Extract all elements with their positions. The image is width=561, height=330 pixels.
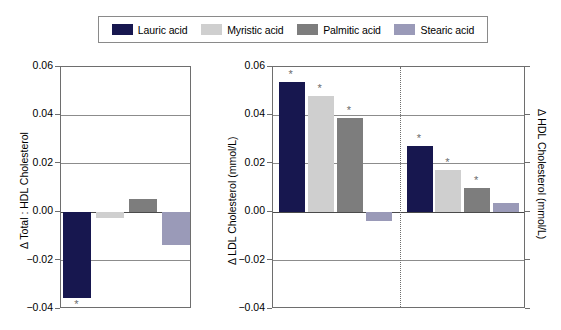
bar — [308, 96, 334, 213]
y-axis-tick-label: 0.02 — [13, 156, 53, 168]
left-panel-y-axis-title: Δ Total : HDL Cholesterol — [18, 132, 30, 249]
y-axis-tick-mark — [267, 162, 272, 163]
y-axis-tick-mark — [267, 308, 272, 309]
right-panel-plot-area — [272, 66, 525, 308]
y-axis-tick-mark — [55, 162, 60, 163]
bar — [279, 82, 305, 212]
significance-marker: * — [286, 69, 296, 80]
right-y-axis-tick-mark — [525, 114, 530, 115]
legend-item-palmitic: Palmitic acid — [297, 24, 381, 36]
bar — [129, 199, 157, 212]
significance-marker: * — [414, 133, 424, 144]
legend-swatch-myristic — [201, 24, 222, 35]
y-axis-tick-mark — [55, 66, 60, 67]
significance-marker: * — [71, 299, 81, 310]
y-axis-tick-mark — [55, 114, 60, 115]
legend-item-stearic: Stearic acid — [394, 24, 474, 36]
y-axis-tick-label: 0.04 — [13, 107, 53, 119]
gridline — [61, 115, 190, 116]
right-y-axis-tick-mark — [525, 66, 530, 67]
right-y-axis-tick-mark — [525, 211, 530, 212]
y-axis-tick-label: −0.02 — [13, 253, 53, 265]
left-panel-plot-area — [60, 66, 191, 308]
bar — [366, 212, 392, 221]
y-axis-tick-mark — [267, 259, 272, 260]
significance-marker: * — [344, 105, 354, 116]
y-axis-tick-mark — [267, 66, 272, 67]
bar — [493, 203, 519, 212]
y-axis-tick-label: 0.02 — [225, 156, 265, 168]
group-divider — [400, 67, 401, 307]
y-axis-tick-mark — [55, 259, 60, 260]
figure-root: Lauric acid Myristic acid Palmitic acid … — [0, 0, 561, 330]
right-y-axis-tick-mark — [525, 308, 530, 309]
right-panel-right-y-axis-title: Δ HDL Cholesterol (mmol/L) — [536, 109, 548, 239]
y-axis-tick-mark — [55, 211, 60, 212]
significance-marker: * — [442, 157, 452, 168]
legend-label-lauric: Lauric acid — [138, 24, 188, 36]
gridline — [61, 163, 190, 164]
y-axis-tick-mark — [267, 114, 272, 115]
legend-label-myristic: Myristic acid — [227, 24, 283, 36]
legend-swatch-stearic — [394, 24, 415, 35]
legend-label-palmitic: Palmitic acid — [323, 24, 381, 36]
y-axis-tick-mark — [55, 308, 60, 309]
legend-label-stearic: Stearic acid — [420, 24, 474, 36]
y-axis-tick-label: 0.04 — [225, 107, 265, 119]
legend-item-myristic: Myristic acid — [201, 24, 283, 36]
y-axis-tick-label: 0.00 — [225, 204, 265, 216]
legend-swatch-lauric — [112, 24, 133, 35]
y-axis-tick-label: −0.04 — [13, 301, 53, 313]
right-y-axis-tick-mark — [525, 162, 530, 163]
legend-swatch-palmitic — [297, 24, 318, 35]
bar — [63, 212, 91, 298]
y-axis-tick-label: 0.00 — [13, 204, 53, 216]
legend: Lauric acid Myristic acid Palmitic acid … — [98, 16, 488, 43]
bar — [162, 212, 190, 245]
gridline — [273, 260, 524, 261]
bar — [407, 146, 433, 212]
y-axis-tick-label: 0.06 — [13, 59, 53, 71]
bar — [435, 170, 461, 212]
bar — [337, 118, 363, 212]
significance-marker: * — [471, 175, 481, 186]
y-axis-tick-label: −0.04 — [225, 301, 265, 313]
y-axis-tick-label: −0.02 — [225, 253, 265, 265]
y-axis-tick-label: 0.06 — [225, 59, 265, 71]
right-y-axis-tick-mark — [525, 259, 530, 260]
bar — [96, 212, 124, 217]
bar — [464, 188, 490, 213]
legend-item-lauric: Lauric acid — [112, 24, 188, 36]
y-axis-tick-mark — [267, 211, 272, 212]
significance-marker: * — [315, 83, 325, 94]
